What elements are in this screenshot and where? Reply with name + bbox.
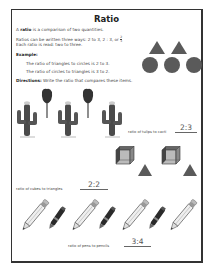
problem-3-prompt: ratio of pens to pencils	[68, 244, 109, 249]
pens-pencils-illustration	[20, 200, 200, 236]
problem-2-prompt: ratio of cubes to triangles	[16, 187, 62, 192]
ways-line-2: Each ratio is read: two to three.	[16, 42, 82, 47]
fraction: 2 3	[120, 36, 122, 43]
triangle-icon	[149, 41, 165, 54]
tulip-icon	[83, 89, 93, 118]
definition-suffix: is a comparison of two quantities.	[31, 27, 103, 32]
circle-icon	[164, 57, 180, 73]
fraction-denominator: 3	[120, 40, 122, 43]
example-label: Example:	[16, 52, 38, 57]
problem-3-answer[interactable]: 3:4	[124, 238, 151, 247]
cactus-icon	[17, 101, 37, 137]
triangle-icon	[183, 164, 197, 176]
problem-1-prompt: ratio of tulips to cacti	[128, 130, 166, 135]
pencil-icon	[71, 199, 100, 232]
problem-2-answer[interactable]: 2:2	[80, 181, 108, 190]
cube-icon	[162, 146, 180, 164]
worksheet-title: Ratio	[12, 14, 201, 24]
tulip-icon	[42, 89, 52, 118]
triangle-icon	[138, 164, 152, 176]
problem-1-answer[interactable]: 2:3	[175, 124, 197, 133]
pen-icon	[47, 206, 66, 230]
pencil-icon	[121, 199, 150, 232]
ways-line-1: Ratios can be written three ways: 2 to 3…	[16, 37, 119, 42]
cacti-tulips-illustration	[16, 88, 131, 140]
pencil-icon	[21, 199, 50, 232]
definition-text: A ratio is a comparison of two quantitie…	[16, 27, 104, 32]
cube-icon	[116, 146, 134, 164]
directions-text: Write the ratio that compares these item…	[42, 78, 133, 83]
directions: Directions: Write the ratio that compare…	[16, 78, 132, 83]
cubes-triangles-illustration	[106, 146, 201, 184]
cactus-icon	[58, 101, 78, 137]
directions-label: Directions:	[16, 78, 42, 83]
circle-icon	[186, 57, 202, 73]
example-line-2: The ratio of circles to triangles is 3 t…	[26, 69, 110, 74]
circle-icon	[142, 57, 158, 73]
example-line-1: The ratio of triangles to circles is 2 t…	[26, 61, 110, 66]
example-shapes	[142, 41, 202, 85]
worksheet-frame: Ratio A ratio is a comparison of two qua…	[11, 9, 203, 263]
cactus-icon	[102, 101, 122, 137]
pen-icon	[147, 206, 166, 230]
triangle-icon	[171, 41, 187, 54]
pen-icon	[97, 206, 116, 230]
definition-term: ratio	[20, 27, 31, 32]
pencil-icon	[169, 199, 198, 232]
